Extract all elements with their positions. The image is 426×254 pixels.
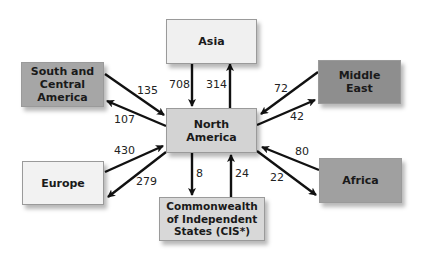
arrow-middle-east-to-north-america [261,72,318,114]
region-box-asia: Asia [166,19,257,64]
flow-value-cis-to-na: 24 [235,168,249,180]
region-box-middle-east: Middle East [318,60,401,104]
flow-value-af-to-na: 80 [295,146,309,158]
region-label-north-america: North America [186,118,237,144]
flow-value-na-to-sca: 107 [114,114,135,126]
region-label-africa: Africa [342,174,378,187]
region-box-africa: Africa [319,158,402,203]
region-box-cis: Commonwealth of Independent States (CIS*… [159,197,265,241]
region-label-cis: Commonwealth of Independent States (CIS*… [166,200,258,238]
flow-value-na-to-me: 42 [290,111,304,123]
arrow-north-america-to-middle-east [257,100,315,125]
region-box-north-america: North America [166,108,257,153]
region-label-south-central-america: South and Central America [31,65,94,104]
flow-value-na-to-af: 22 [270,172,284,184]
arrow-africa-to-north-america [262,147,319,170]
region-box-europe: Europe [22,161,104,205]
flow-value-sca-to-na: 135 [137,85,158,97]
flow-value-na-to-cis: 8 [196,168,203,180]
flow-value-na-to-eu: 279 [136,176,157,188]
region-label-asia: Asia [198,35,224,48]
flow-value-eu-to-na: 430 [114,145,135,157]
flow-value-me-to-na: 72 [274,83,288,95]
region-label-europe: Europe [41,177,85,190]
flow-value-asia-to-na: 708 [169,79,190,91]
region-box-south-central-america: South and Central America [21,62,104,107]
region-label-middle-east: Middle East [339,69,381,95]
flow-value-na-to-asia: 314 [206,79,227,91]
